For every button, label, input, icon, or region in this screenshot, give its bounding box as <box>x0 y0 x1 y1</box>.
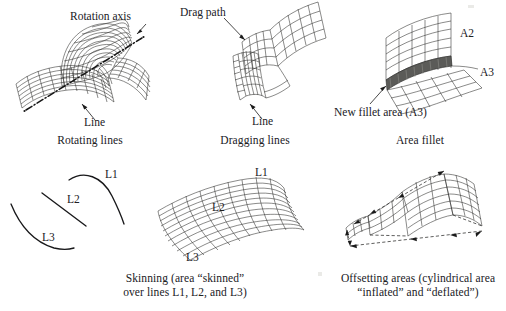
caption-dragging-lines: Dragging lines <box>180 134 330 148</box>
fillet-band-a3 <box>386 56 452 90</box>
dragging-lines-drawing <box>178 0 338 130</box>
rotation-axis-arrowhead <box>137 29 142 34</box>
caption-skinning: Skinning (area “skinned” over lines L1, … <box>60 272 310 299</box>
label-new-fillet-area: New fillet area (A3) <box>334 106 427 118</box>
new-fillet-arrowhead <box>380 86 386 91</box>
figure-canvas: Rotation axis Line Rotating lines <box>0 0 506 311</box>
panel-offsetting-areas <box>332 158 506 270</box>
rotated-surface-mesh <box>16 20 150 108</box>
axis-end-dot <box>23 110 25 112</box>
scan-artifact <box>468 5 474 8</box>
label-rotation-axis: Rotation axis <box>70 10 131 22</box>
skinning-curves-drawing <box>0 158 150 268</box>
panel-dragging-lines: Drag path Line <box>178 0 338 130</box>
panel-area-fillet: A2 A3 New fillet area (A3) <box>338 0 506 130</box>
line-arrowhead-2 <box>250 104 256 110</box>
label-l3-curve: L3 <box>42 231 55 243</box>
caption-offsetting-areas: Offsetting areas (cylindrical area “infl… <box>330 272 506 299</box>
line-arrowhead <box>82 104 87 110</box>
caption-rotating-lines: Rotating lines <box>10 134 170 148</box>
skinned-surface-mesh <box>158 177 304 260</box>
panel-skinning-curves: L1 L2 L3 <box>0 158 150 268</box>
label-l1-surface: L1 <box>255 166 268 178</box>
scan-artifact <box>318 272 322 276</box>
label-l2-curve: L2 <box>67 193 80 205</box>
panel-rotating-lines: Rotation axis Line <box>0 0 175 130</box>
dragged-surface-mesh <box>233 2 326 100</box>
label-drag-path: Drag path <box>180 6 226 18</box>
offset-bands-mesh <box>346 174 482 240</box>
label-a2: A2 <box>460 27 474 39</box>
label-a3: A3 <box>480 66 494 78</box>
label-line-rotating: Line <box>84 116 105 128</box>
offset-base-dash-1 <box>370 235 408 236</box>
label-l2-surface: L2 <box>212 201 225 213</box>
label-l1-curve: L1 <box>105 168 118 180</box>
offsetting-areas-drawing <box>332 158 506 270</box>
skinned-surface-drawing <box>150 158 330 270</box>
label-l3-surface: L3 <box>186 251 199 263</box>
label-line-dragging: Line <box>252 115 273 127</box>
caption-area-fillet: Area fillet <box>340 134 500 148</box>
panel-skinned-surface: L1 L2 L3 <box>150 158 330 270</box>
axis-end-dot <box>142 36 144 38</box>
